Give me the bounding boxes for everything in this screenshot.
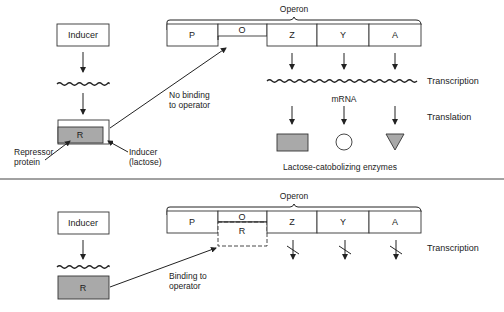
no-binding-label: No binding	[169, 90, 210, 100]
operon-label: Operon	[280, 4, 309, 14]
gene-y-label: Y	[340, 30, 346, 40]
pointer-icon	[108, 141, 128, 152]
translation-label: Translation	[427, 112, 471, 122]
binding-label-2: operator	[169, 281, 201, 291]
enzyme-rectangle-icon	[277, 134, 308, 151]
transcription-label: Transcription	[427, 76, 479, 86]
blocked-arrow-icon	[390, 240, 402, 259]
bound-repressor-label: R	[239, 226, 246, 236]
enzyme-triangle-icon	[386, 134, 404, 150]
gene-z-label: Z	[289, 30, 295, 40]
repressor-protein-label: Repressor	[14, 147, 53, 157]
inducer-label: Inducer	[68, 218, 98, 228]
binding-label: Binding to	[169, 271, 207, 281]
inducer-lactose-label-2: (lactose)	[129, 157, 162, 167]
enzymes-label: Lactose-catobolizing enzymes	[283, 162, 397, 172]
inducer-label: Inducer	[68, 30, 98, 40]
inducer-box: Inducer	[57, 24, 109, 46]
gene-a-label: A	[392, 217, 398, 227]
operon-genes: P O R Z Y A	[167, 211, 421, 246]
inducer-lactose-label: Inducer	[129, 147, 158, 157]
bottom-panel: Inducer R Binding to operator Operon P O…	[57, 191, 479, 299]
no-binding-label-2: to operator	[169, 100, 210, 110]
blocked-arrow-icon	[287, 240, 299, 259]
gene-o-label: O	[238, 212, 245, 222]
repressor-inducer-complex: R	[58, 120, 109, 144]
gene-y-label: Y	[340, 217, 346, 227]
operon-label: Operon	[280, 191, 309, 201]
repressor-protein: R	[58, 276, 109, 299]
mrna-wave-icon	[57, 83, 109, 86]
gene-a-label: A	[392, 30, 398, 40]
gene-p-label: P	[189, 30, 195, 40]
transcription-label: Transcription	[427, 243, 479, 253]
repressor-letter: R	[80, 283, 87, 293]
inducer-box: Inducer	[58, 212, 109, 234]
repressor-protein-label-2: protein	[14, 157, 40, 167]
enzyme-circle-icon	[336, 134, 352, 150]
operon-genes: P O Z Y A	[167, 24, 421, 46]
gene-o-label: O	[238, 25, 245, 35]
blocked-arrow-icon	[339, 240, 351, 259]
mrna-label: mRNA	[331, 94, 356, 104]
mrna-wave-icon	[267, 80, 417, 83]
gene-z-label: Z	[289, 217, 295, 227]
no-binding-arrow-icon	[110, 48, 226, 128]
gene-p-label: P	[189, 217, 195, 227]
repressor-letter: R	[77, 130, 84, 140]
mrna-wave-icon	[57, 266, 109, 269]
top-panel: Inducer R Repressor protein Inducer (lac…	[14, 4, 479, 172]
lac-operon-diagram: Inducer R Repressor protein Inducer (lac…	[0, 0, 504, 312]
